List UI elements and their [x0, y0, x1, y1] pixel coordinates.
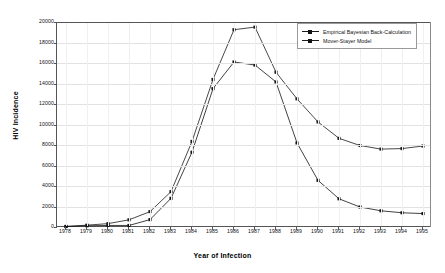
vertical-gridline	[129, 22, 130, 226]
y-axis-tick-label: 0	[8, 224, 54, 229]
gridline	[57, 63, 431, 64]
y-axis-tick-label: 12000	[8, 101, 54, 106]
vertical-gridline	[381, 22, 382, 226]
x-axis-tick-mark	[107, 227, 108, 230]
vertical-gridline	[234, 22, 235, 226]
legend-item-mover-stayer: Mover-Stayer Model	[302, 36, 411, 45]
vertical-gridline	[339, 22, 340, 226]
gridline	[57, 125, 431, 126]
vertical-gridline	[171, 22, 172, 226]
x-axis-tick-mark	[317, 227, 318, 230]
y-axis-tick-label: 4000	[8, 183, 54, 188]
x-axis-tick-mark	[170, 227, 171, 230]
x-axis-tick-mark	[65, 227, 66, 230]
plot-area	[56, 22, 431, 227]
gridline	[57, 84, 431, 85]
y-axis-tick-label: 20000	[8, 19, 54, 24]
x-axis-tick-mark	[401, 227, 402, 230]
legend-marker-icon	[302, 37, 319, 44]
x-axis-tick-mark	[254, 227, 255, 230]
y-axis-tick-label: 6000	[8, 163, 54, 168]
gridline	[57, 207, 431, 208]
vertical-gridline	[318, 22, 319, 226]
gridline	[57, 186, 431, 187]
y-axis-tick-label: 2000	[8, 204, 54, 209]
hiv-incidence-line-chart: HIV Incidence 02000400060008000100001200…	[0, 0, 445, 273]
chart-legend: Empirical Bayesian Back-Calculation Move…	[297, 23, 417, 49]
vertical-gridline	[255, 22, 256, 226]
y-axis-ticks: 0200040006000800010000120001400016000180…	[2, 0, 54, 273]
y-axis-tick-mark	[54, 227, 57, 228]
x-axis-tick-mark	[149, 227, 150, 230]
vertical-gridline	[108, 22, 109, 226]
x-axis-title: Year of Infection	[0, 252, 445, 259]
vertical-gridline	[402, 22, 403, 226]
x-axis-tick-mark	[359, 227, 360, 230]
series-1	[64, 26, 424, 228]
legend-item-label: Empirical Bayesian Back-Calculation	[323, 29, 411, 35]
gridline	[57, 166, 431, 167]
legend-marker-icon	[302, 28, 319, 35]
vertical-gridline	[192, 22, 193, 226]
x-axis-tick-mark	[296, 227, 297, 230]
plot-frame-right	[430, 22, 431, 227]
y-axis-tick-label: 14000	[8, 81, 54, 86]
series-line	[66, 27, 423, 226]
x-axis-tick-mark	[380, 227, 381, 230]
legend-item-empirical-bayesian: Empirical Bayesian Back-Calculation	[302, 27, 411, 36]
y-axis-tick-label: 16000	[8, 60, 54, 65]
x-axis-tick-mark	[86, 227, 87, 230]
x-axis-tick-mark	[128, 227, 129, 230]
x-axis-tick-mark	[422, 227, 423, 230]
gridline	[57, 145, 431, 146]
vertical-gridline	[150, 22, 151, 226]
vertical-gridline	[213, 22, 214, 226]
y-axis-tick-label: 18000	[8, 40, 54, 45]
vertical-gridline	[360, 22, 361, 226]
x-axis-tick-mark	[233, 227, 234, 230]
gridline	[57, 104, 431, 105]
x-axis-ticks: 1978197919801981198219831984198519861987…	[56, 229, 431, 243]
x-axis-tick-mark	[191, 227, 192, 230]
x-axis-tick-mark	[338, 227, 339, 230]
x-axis-tick-mark	[212, 227, 213, 230]
y-axis-tick-label: 8000	[8, 142, 54, 147]
vertical-gridline	[297, 22, 298, 226]
legend-item-label: Mover-Stayer Model	[323, 38, 372, 44]
vertical-gridline	[87, 22, 88, 226]
vertical-gridline	[66, 22, 67, 226]
x-axis-tick-mark	[275, 227, 276, 230]
vertical-gridline	[276, 22, 277, 226]
vertical-gridline	[423, 22, 424, 226]
y-axis-tick-label: 10000	[8, 122, 54, 127]
